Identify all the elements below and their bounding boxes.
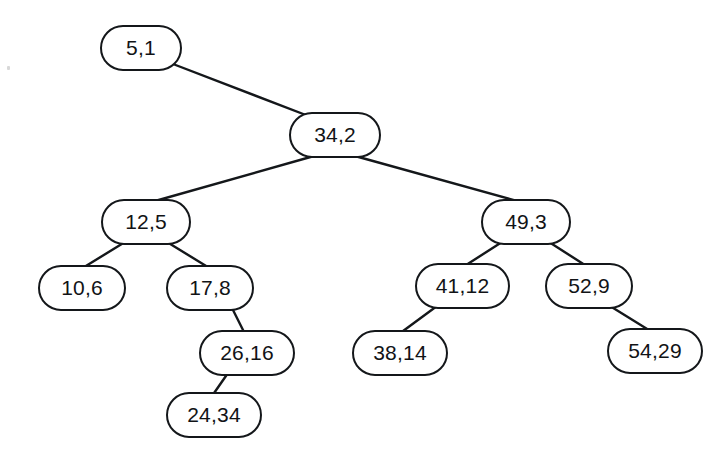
tree-node: 24,34 (166, 392, 262, 438)
tree-node-label: 38,14 (373, 342, 427, 365)
tree-node-label: 49,3 (505, 211, 547, 234)
tree-node: 52,9 (545, 263, 633, 309)
tree-node-label: 10,6 (61, 277, 103, 300)
tree-edge (173, 64, 311, 117)
tree-node: 49,3 (481, 199, 571, 245)
tree-node-label: 5,1 (126, 37, 156, 60)
tree-edge (355, 156, 524, 203)
tree-node: 5,1 (100, 25, 182, 71)
tree-node: 38,14 (352, 330, 448, 376)
tree-node: 12,5 (101, 199, 191, 245)
tree-node-label: 54,29 (628, 340, 682, 363)
tree-node-label: 24,34 (187, 404, 241, 427)
binary-search-tree-diagram: 5,134,212,549,310,617,841,1252,926,1638,… (0, 0, 725, 462)
tree-edge (148, 156, 314, 203)
tree-node-label: 52,9 (568, 275, 610, 298)
tree-node-label: 34,2 (314, 124, 356, 147)
tree-node: 26,16 (199, 330, 295, 376)
tree-node: 34,2 (289, 112, 381, 158)
tree-node-label: 12,5 (125, 211, 167, 234)
scan-speck (7, 66, 10, 70)
tree-node-label: 17,8 (189, 277, 231, 300)
tree-node-label: 41,12 (436, 275, 490, 298)
tree-node: 41,12 (415, 263, 510, 309)
tree-node: 17,8 (166, 265, 254, 311)
tree-node: 10,6 (38, 265, 126, 311)
tree-node-label: 26,16 (220, 342, 274, 365)
tree-node: 54,29 (607, 328, 703, 374)
